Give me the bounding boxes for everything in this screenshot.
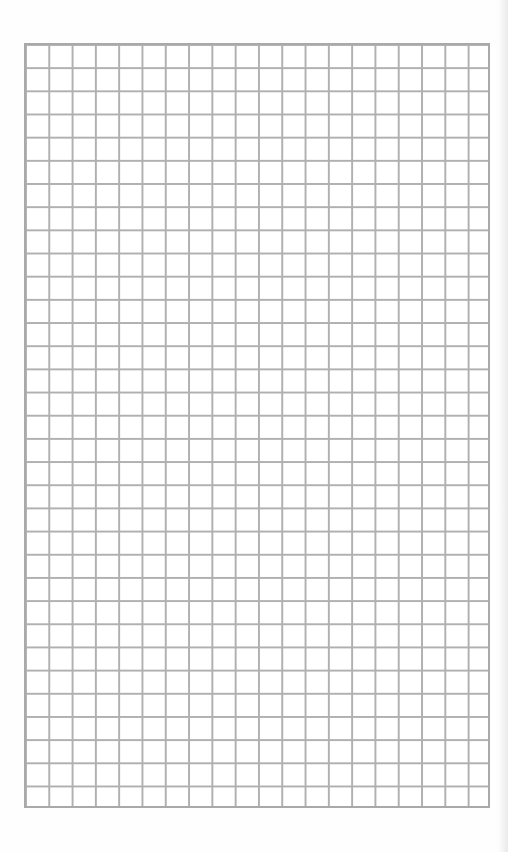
graph-paper-page: [0, 0, 508, 852]
graph-grid: [24, 43, 490, 808]
page-edge-shadow: [498, 0, 508, 852]
